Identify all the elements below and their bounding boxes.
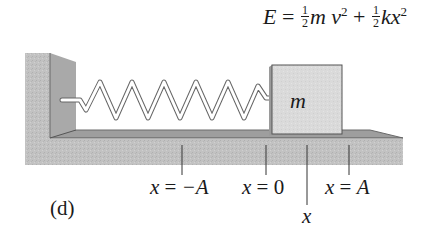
label-x-zero: x = 0 <box>242 177 284 198</box>
panel-label: (d) <box>50 198 75 219</box>
label-position-x: x <box>302 206 311 227</box>
fraction-half-2: 1 2 <box>372 4 380 29</box>
fraction-half-1: 1 2 <box>301 4 309 29</box>
equation-plus: + <box>353 4 365 29</box>
mass-label: m <box>290 88 306 114</box>
equation-lhs: E <box>263 4 276 29</box>
label-x-pos-A: x = A <box>325 177 370 198</box>
equation-equals: = <box>282 4 294 29</box>
energy-equation: E = 1 2 m v2 + 1 2 kx2 <box>263 6 407 31</box>
spring-mass-diagram: E = 1 2 m v2 + 1 2 kx2 m x = −A x = 0 x … <box>0 0 430 237</box>
label-x-neg-A: x = −A <box>150 177 209 198</box>
spring <box>62 82 270 118</box>
floor <box>25 130 403 165</box>
